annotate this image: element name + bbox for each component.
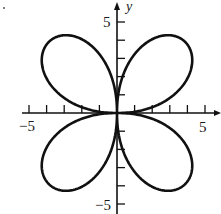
polar-rose-chart: y −5 5 5 −5 bbox=[0, 0, 221, 214]
y-tick-label-max: 5 bbox=[103, 14, 111, 30]
y-tick-label-min: −5 bbox=[95, 197, 111, 213]
stray-dot bbox=[3, 7, 5, 9]
x-tick-label-min: −5 bbox=[19, 118, 35, 134]
axes bbox=[22, 2, 221, 214]
x-tick-label-max: 5 bbox=[199, 119, 207, 135]
y-axis-arrow-icon bbox=[114, 2, 120, 10]
x-axis-arrow-icon bbox=[214, 110, 221, 116]
y-axis-label: y bbox=[124, 0, 133, 14]
